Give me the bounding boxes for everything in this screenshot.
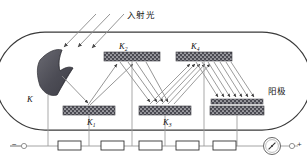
k3-subscript: 3: [169, 122, 172, 128]
dynode-k1-label: K1: [87, 117, 95, 128]
incident-light-label: 入射光: [127, 8, 155, 20]
resistor-5: [213, 141, 236, 150]
dynode-k3: [139, 106, 191, 115]
galvanometer: [264, 138, 281, 155]
schematic-svg: [0, 0, 307, 167]
dynode-k3-label: K3: [163, 117, 171, 128]
anode-label: 阳极: [268, 84, 287, 96]
positive-terminal-label: +: [297, 140, 302, 149]
k2-subscript: 2: [125, 46, 128, 52]
resistor-1: [58, 141, 81, 150]
resistor-3: [139, 141, 162, 150]
negative-terminal-label: −: [12, 140, 17, 149]
resistor-4: [176, 141, 199, 150]
cathode-k-label: K: [27, 94, 33, 104]
dynode-k4-label: K4: [191, 41, 199, 52]
anode-plate: [210, 106, 264, 115]
dynode-k2-label: K2: [119, 41, 127, 52]
anode-grid: [211, 99, 263, 104]
resistor-2: [101, 141, 124, 150]
dynode-k4: [176, 52, 232, 61]
terminal-negative: [21, 143, 26, 148]
voltage-divider-circuit: [10, 138, 298, 155]
dynode-k1: [63, 106, 115, 115]
dynode-k2: [104, 52, 160, 61]
figure-photomultiplier-tube: 入射光 阳极 K K1 K2 K3 K4 − +: [0, 0, 307, 167]
k4-subscript: 4: [197, 46, 200, 52]
terminal-positive: [289, 143, 294, 148]
k1-subscript: 1: [93, 122, 96, 128]
